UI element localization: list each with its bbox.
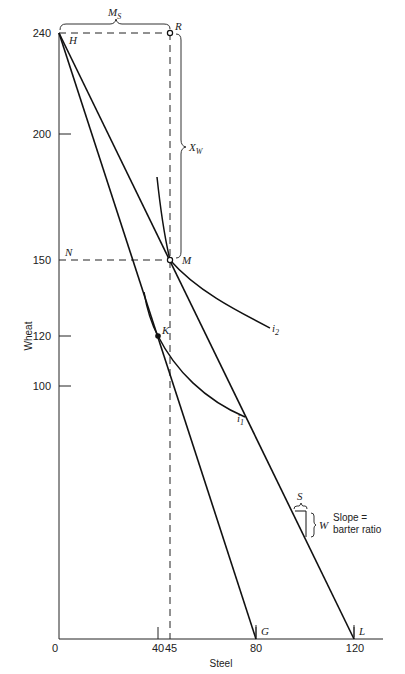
trade-diagram: 240 200 150 120 100 0 40 45 80 120 Steel…: [0, 0, 405, 674]
point-R-marker: [167, 30, 172, 35]
label-N: N: [64, 246, 73, 258]
label-L: L: [358, 625, 365, 637]
label-M: M: [181, 254, 192, 266]
label-S: S: [297, 490, 303, 502]
y-tick-150: 150: [33, 254, 51, 266]
slope-note-line2: barter ratio: [333, 524, 382, 535]
label-G: G: [261, 625, 269, 637]
brace-W: [311, 513, 316, 537]
x-tick-0: 0: [52, 642, 58, 654]
label-R: R: [174, 20, 182, 32]
x-axis-title: Steel: [210, 658, 233, 669]
line-HL: [59, 33, 354, 639]
y-tick-200: 200: [33, 128, 51, 140]
slope-note-line1: Slope =: [333, 512, 367, 523]
x-tick-45: 45: [165, 642, 177, 654]
label-W: W: [319, 519, 329, 531]
label-H: H: [68, 34, 78, 46]
dashed-guides: [59, 33, 170, 639]
point-K-marker: [155, 333, 161, 339]
y-tick-100: 100: [33, 380, 51, 392]
slope-triangle: [295, 511, 306, 537]
indifference-curve-i2: [157, 177, 270, 328]
label-i2: i2: [272, 322, 279, 337]
brace-S: [294, 503, 307, 509]
point-M-marker: [167, 257, 172, 262]
y-tick-120: 120: [33, 330, 51, 342]
label-Xw: XW: [188, 141, 204, 156]
x-tick-40: 40: [152, 642, 164, 654]
x-tick-80: 80: [250, 642, 262, 654]
label-Ms: MS: [107, 6, 121, 21]
brace-Xw: [176, 34, 186, 258]
y-tick-240: 240: [33, 27, 51, 39]
brace-Ms: [60, 19, 170, 30]
label-K: K: [161, 324, 170, 336]
x-tick-120: 120: [346, 642, 364, 654]
y-axis-title: Wheat: [23, 321, 34, 350]
